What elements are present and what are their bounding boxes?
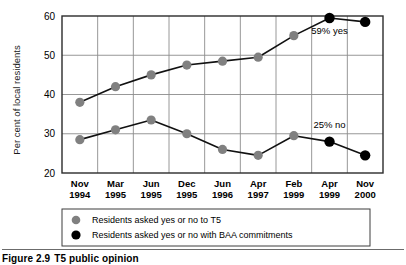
data-point-marker — [254, 151, 263, 160]
data-point-marker — [324, 13, 334, 23]
x-tick-label-month: Feb — [285, 178, 302, 189]
x-tick-label-year: 1996 — [212, 189, 233, 200]
figure-caption-text: T5 public opinion — [54, 253, 138, 264]
data-point-marker — [75, 98, 84, 107]
data-point-marker — [147, 115, 156, 124]
x-tick-label-month: Jun — [143, 178, 160, 189]
data-point-marker — [111, 125, 120, 134]
x-tick-label-month: Dec — [178, 178, 195, 189]
y-tick-label: 40 — [44, 89, 56, 100]
x-tick-label-year: 1999 — [283, 189, 304, 200]
legend-marker-icon — [71, 230, 80, 239]
data-point-marker — [324, 136, 334, 146]
chart-annotation-label: 25% no — [313, 119, 345, 130]
data-point-marker — [111, 82, 120, 91]
x-tick-label-month: Mar — [107, 178, 124, 189]
data-point-marker — [147, 70, 156, 79]
x-tick-label-year: 1999 — [319, 189, 340, 200]
data-point-marker — [182, 129, 191, 138]
y-tick-label: 60 — [44, 11, 56, 22]
data-point-marker — [289, 31, 298, 40]
x-tick-label-month: Apr — [321, 178, 338, 189]
x-tick-label-month: Nov — [71, 178, 90, 189]
data-point-marker — [289, 131, 298, 140]
x-tick-label-year: 1995 — [105, 189, 127, 200]
figure-t5-public-opinion: Per cent of local residents 2030405060 N… — [0, 0, 406, 265]
data-point-marker — [360, 150, 370, 160]
x-tick-label-year: 2000 — [355, 189, 376, 200]
x-tick-label-month: Apr — [250, 178, 267, 189]
y-axis-title: Per cent of local residents — [11, 45, 22, 155]
legend-item-label: Residents asked yes or no with BAA commi… — [92, 230, 293, 240]
x-tick-label-month: Nov — [356, 178, 375, 189]
x-tick-label-year: 1995 — [176, 189, 198, 200]
figure-number: Figure 2.9 — [2, 253, 50, 264]
chart-canvas: Per cent of local residents 2030405060 N… — [0, 0, 406, 265]
data-point-marker — [218, 57, 227, 66]
caption-divider — [2, 249, 404, 250]
data-point-marker — [218, 145, 227, 154]
x-tick-label-year: 1995 — [141, 189, 163, 200]
data-point-marker — [360, 17, 370, 27]
legend-marker-icon — [72, 216, 81, 225]
x-tick-label-year: 1997 — [248, 189, 269, 200]
chart-annotation-label: 59% yes — [311, 25, 348, 36]
y-axis-tick-labels: 2030405060 — [44, 11, 56, 179]
x-tick-label-year: 1994 — [69, 189, 91, 200]
y-tick-label: 30 — [44, 128, 56, 139]
figure-caption: Figure 2.9T5 public opinion — [2, 253, 139, 264]
legend-item-label: Residents asked yes or no to T5 — [92, 215, 221, 225]
data-point-marker — [75, 135, 84, 144]
data-point-marker — [182, 60, 191, 69]
x-tick-label-month: Jun — [214, 178, 231, 189]
chart-annotations: 59% yes25% no — [311, 25, 348, 130]
x-axis-tick-labels: Nov1994Mar1995Jun1995Dec1995Jun1996Apr19… — [69, 178, 375, 200]
y-tick-label: 50 — [44, 50, 56, 61]
data-point-marker — [254, 53, 263, 62]
y-tick-label: 20 — [44, 168, 56, 179]
